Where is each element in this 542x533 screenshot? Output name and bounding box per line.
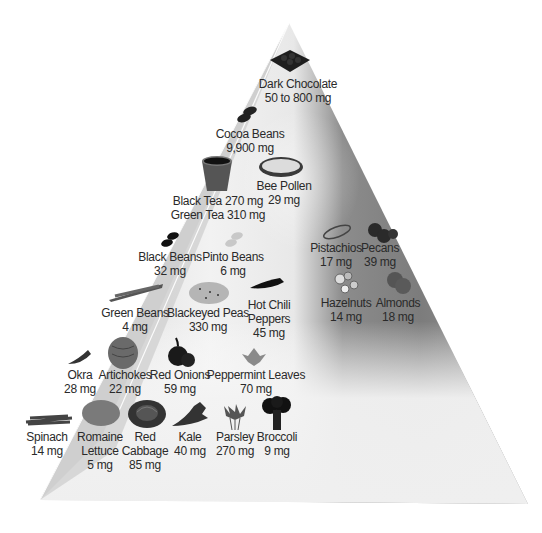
item-pecans: Pecans 39 mg bbox=[361, 241, 399, 269]
item-amount: 9 mg bbox=[257, 444, 297, 458]
bee-pollen-bowl-icon bbox=[258, 156, 304, 178]
item-name-2: Lettuce bbox=[77, 444, 123, 458]
chili-pepper-icon bbox=[248, 276, 286, 292]
item-name: Peppermint Leaves bbox=[207, 368, 305, 382]
item-name: Hot Chili bbox=[248, 298, 291, 312]
item-blackeyed-peas: Blackeyed Peas 330 mg bbox=[167, 306, 249, 334]
red-onion-icon bbox=[166, 336, 196, 368]
item-name: Spinach bbox=[26, 430, 67, 444]
item-amount: 22 mg bbox=[98, 382, 151, 396]
item-name: Pecans bbox=[361, 241, 399, 255]
cocoa-beans-icon bbox=[235, 106, 259, 124]
item-tea: Black Tea 270 mg Green Tea 310 mg bbox=[171, 194, 265, 222]
item-name: Almonds bbox=[376, 296, 421, 310]
item-amount: 5 mg bbox=[77, 458, 123, 472]
pinto-beans-icon bbox=[223, 232, 245, 248]
item-amount: 28 mg bbox=[64, 382, 96, 396]
artichoke-icon bbox=[106, 336, 140, 370]
item-romaine-lettuce: Romaine Lettuce 5 mg bbox=[77, 430, 123, 472]
item-name: Okra bbox=[64, 368, 96, 382]
item-parsley: Parsley 270 mg bbox=[216, 430, 254, 458]
item-amount: 70 mg bbox=[207, 382, 305, 396]
item-amount: 4 mg bbox=[101, 320, 168, 334]
item-spinach: Spinach 14 mg bbox=[26, 430, 67, 458]
almonds-icon bbox=[385, 270, 413, 296]
peppermint-leaves-icon bbox=[240, 346, 268, 368]
item-name: Blackeyed Peas bbox=[167, 306, 249, 320]
item-amount: 40 mg bbox=[174, 444, 206, 458]
item-name: Green Beans bbox=[101, 306, 168, 320]
item-name: Black Tea 270 mg bbox=[171, 194, 265, 208]
item-red-cabbage: Red Cabbage 85 mg bbox=[122, 430, 169, 472]
item-name: Red bbox=[122, 430, 169, 444]
item-name: Dark Chocolate bbox=[259, 77, 338, 91]
item-almonds: Almonds 18 mg bbox=[376, 296, 421, 324]
item-name: Hazelnuts bbox=[321, 296, 372, 310]
pistachios-icon bbox=[322, 224, 352, 240]
item-amount: 29 mg bbox=[256, 193, 311, 207]
item-name: Broccoli bbox=[257, 430, 297, 444]
item-amount: 330 mg bbox=[167, 320, 249, 334]
item-name: Bee Pollen bbox=[256, 179, 311, 193]
item-name: Kale bbox=[174, 430, 206, 444]
item-okra: Okra 28 mg bbox=[64, 368, 96, 396]
item-name: Parsley bbox=[216, 430, 254, 444]
item-amount: 39 mg bbox=[361, 255, 399, 269]
tea-cup-icon bbox=[200, 155, 234, 193]
chocolate-bar-icon bbox=[268, 48, 312, 74]
item-name: Black Beans bbox=[138, 250, 201, 264]
item-amount: 45 mg bbox=[248, 326, 291, 340]
item-artichokes: Artichokes 22 mg bbox=[98, 368, 151, 396]
item-pistachios: Pistachios 17 mg bbox=[310, 241, 362, 269]
black-beans-icon bbox=[159, 232, 181, 248]
okra-icon bbox=[66, 348, 92, 366]
item-amount: 9,900 mg bbox=[216, 141, 285, 155]
item-amount: 18 mg bbox=[376, 310, 421, 324]
item-amount: 50 to 800 mg bbox=[259, 91, 338, 105]
item-broccoli: Broccoli 9 mg bbox=[257, 430, 297, 458]
item-red-onions: Red Onions 59 mg bbox=[150, 368, 210, 396]
item-name-2: Cabbage bbox=[122, 444, 169, 458]
item-name: Artichokes bbox=[98, 368, 151, 382]
spinach-icon bbox=[24, 410, 74, 430]
item-name: Pistachios bbox=[310, 241, 362, 255]
item-pinto-beans: Pinto Beans 6 mg bbox=[202, 250, 263, 278]
item-amount: 32 mg bbox=[138, 264, 201, 278]
item-hot-chili: Hot Chili Peppers 45 mg bbox=[248, 298, 291, 340]
red-cabbage-icon bbox=[127, 398, 167, 430]
item-name: Cocoa Beans bbox=[216, 127, 285, 141]
item-amount: 17 mg bbox=[310, 255, 362, 269]
parsley-icon bbox=[218, 402, 252, 430]
item-dark-chocolate: Dark Chocolate 50 to 800 mg bbox=[259, 77, 338, 105]
item-black-beans: Black Beans 32 mg bbox=[138, 250, 201, 278]
item-name: Pinto Beans bbox=[202, 250, 263, 264]
item-peppermint: Peppermint Leaves 70 mg bbox=[207, 368, 305, 396]
item-amount: 14 mg bbox=[26, 444, 67, 458]
item-hazelnuts: Hazelnuts 14 mg bbox=[321, 296, 372, 324]
item-name: Romaine bbox=[77, 430, 123, 444]
item-amount: 270 mg bbox=[216, 444, 254, 458]
item-bee-pollen: Bee Pollen 29 mg bbox=[256, 179, 311, 207]
item-name-2: Peppers bbox=[248, 312, 291, 326]
item-kale: Kale 40 mg bbox=[174, 430, 206, 458]
item-green-beans: Green Beans 4 mg bbox=[101, 306, 168, 334]
item-amount: 6 mg bbox=[202, 264, 263, 278]
item-amount: Green Tea 310 mg bbox=[171, 208, 265, 222]
item-cocoa-beans: Cocoa Beans 9,900 mg bbox=[216, 127, 285, 155]
hazelnuts-icon bbox=[332, 270, 364, 296]
item-amount: 85 mg bbox=[122, 458, 169, 472]
item-amount: 59 mg bbox=[150, 382, 210, 396]
romaine-lettuce-icon bbox=[81, 398, 121, 428]
broccoli-icon bbox=[261, 396, 293, 432]
kale-icon bbox=[170, 400, 212, 428]
green-beans-icon bbox=[107, 282, 165, 302]
item-amount: 14 mg bbox=[321, 310, 372, 324]
item-name: Red Onions bbox=[150, 368, 210, 382]
blackeyed-peas-icon bbox=[188, 280, 230, 306]
